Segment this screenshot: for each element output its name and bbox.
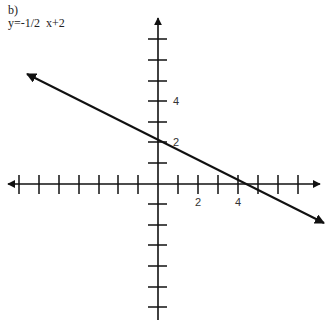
- x-tick-label-2: 2: [195, 196, 201, 208]
- y-tick-label-4: 4: [173, 95, 179, 107]
- coordinate-plane: 2 4 2 4: [0, 0, 329, 321]
- x-tick-label-4: 4: [235, 196, 241, 208]
- y-tick-label-2: 2: [173, 136, 179, 148]
